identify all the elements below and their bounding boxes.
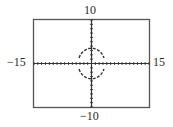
axes: [34, 20, 149, 107]
graph-window: [0, 0, 173, 127]
